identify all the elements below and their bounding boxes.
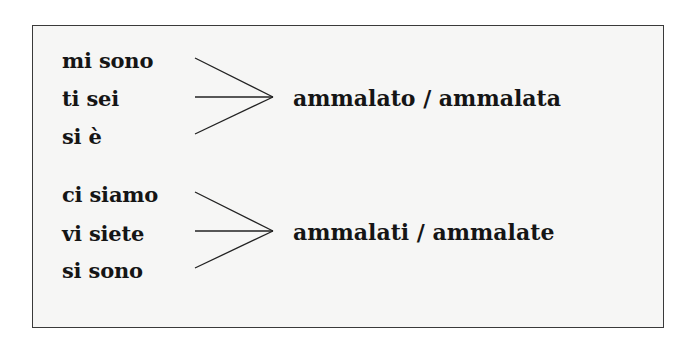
conjugation-table-box: mi sono ti sei si è ammalato / ammalata … — [32, 25, 664, 328]
result-plural: ammalati / ammalate — [293, 221, 554, 243]
result-singular: ammalato / ammalata — [293, 87, 561, 109]
